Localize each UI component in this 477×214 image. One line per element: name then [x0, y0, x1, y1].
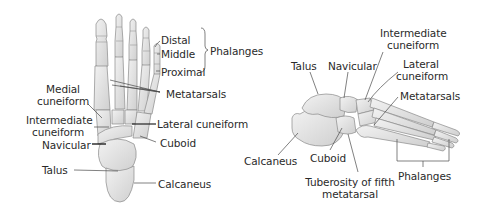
label-calcaneus-superior: Calcaneus [158, 178, 211, 190]
label-medial-cuneiform: Medial cuneiform [36, 83, 90, 107]
label-talus-superior: Talus [42, 164, 68, 176]
label-navicular-superior: Navicular [42, 139, 91, 151]
label-metatarsals-superior: Metatarsals [166, 88, 226, 100]
label-phalanges-lateral: Phalanges [398, 170, 451, 182]
label-tuberosity-fifth-metatarsal: Tuberosity of fifth metatarsal [290, 176, 410, 200]
foot-bones-diagram: Distal Middle Proximal Phalanges Metatar… [0, 0, 477, 214]
label-navicular-lateral: Navicular [328, 60, 377, 72]
label-cuboid-superior: Cuboid [160, 137, 196, 149]
label-lateral-cuneiform-superior: Lateral cuneiform [157, 118, 248, 130]
label-talus-lateral: Talus [291, 60, 317, 72]
label-metatarsals-lateral: Metatarsals [400, 90, 460, 102]
label-proximal: Proximal [161, 66, 205, 78]
label-phalanges-superior: Phalanges [210, 45, 263, 57]
label-intermediate-cuneiform-lateral: Intermediate cuneiform [380, 27, 446, 51]
label-middle: Middle [161, 48, 195, 60]
label-distal: Distal [161, 34, 190, 46]
label-calcaneus-lateral: Calcaneus [244, 155, 297, 167]
label-cuboid-lateral: Cuboid [310, 152, 346, 164]
label-intermediate-cuneiform-superior: Intermediate cuneiform [26, 114, 90, 138]
label-lateral-cuneiform-lateral: Lateral cuneiform [396, 58, 446, 82]
